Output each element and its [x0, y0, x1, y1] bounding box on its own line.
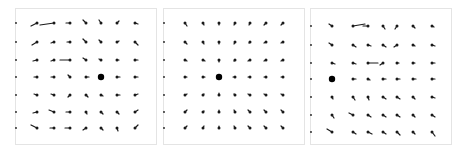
vector-stroke: [135, 125, 138, 128]
vector-stroke: [353, 97, 355, 100]
edge-mark: [310, 25, 312, 27]
vector-stroke: [31, 125, 37, 128]
edge-mark: [310, 78, 312, 80]
edge-mark: [15, 59, 17, 61]
vector-stroke: [353, 45, 356, 47]
vector-stroke: [185, 126, 187, 128]
center-dot: [329, 76, 335, 82]
vector-stroke: [395, 26, 397, 29]
vector-stroke: [264, 110, 266, 112]
edge-mark: [310, 96, 312, 98]
vector-stroke: [281, 126, 283, 128]
vector-stroke: [135, 110, 138, 112]
vector-stroke: [83, 128, 86, 130]
edge-mark: [310, 62, 312, 64]
panel-middle-glyphs: [163, 22, 284, 130]
edge-mark: [163, 41, 165, 43]
edge-mark: [163, 22, 165, 24]
vector-stroke: [99, 20, 101, 23]
vector-stroke: [380, 63, 383, 65]
vector-stroke: [68, 75, 70, 77]
edge-mark: [163, 59, 165, 61]
vector-stroke: [264, 126, 266, 128]
panel-right-glyphs: [310, 24, 435, 136]
vector-stroke: [68, 95, 70, 97]
vector-stroke: [327, 129, 332, 132]
vector-stroke: [281, 110, 283, 112]
vector-stroke: [83, 58, 86, 60]
vector-stroke: [83, 39, 86, 42]
vector-stroke: [383, 45, 386, 47]
vector-stroke: [383, 26, 385, 29]
vector-stroke: [248, 110, 250, 112]
vector-stroke: [432, 115, 435, 117]
vector-stroke: [432, 132, 435, 136]
edge-mark: [163, 76, 165, 78]
vector-stroke: [329, 43, 332, 45]
vector-stroke: [117, 21, 119, 23]
vector-stroke: [101, 128, 103, 130]
vector-stroke: [234, 60, 235, 61]
vector-stroke: [86, 95, 88, 97]
vector-stroke: [185, 110, 187, 112]
edge-mark: [310, 44, 312, 46]
vector-stroke: [397, 115, 400, 117]
vector-field-figure: [0, 0, 467, 154]
vector-stroke: [353, 132, 356, 134]
edge-mark: [15, 111, 17, 113]
vector-stroke: [413, 132, 415, 134]
edge-mark: [310, 114, 312, 116]
vector-stroke: [264, 23, 266, 25]
vector-stroke: [203, 94, 204, 95]
vector-stroke: [234, 94, 235, 95]
vector-stroke: [413, 115, 415, 117]
vector-stroke: [281, 23, 283, 25]
vector-stroke: [397, 97, 400, 99]
vector-stroke: [185, 23, 187, 26]
vector-stroke: [368, 115, 371, 117]
edge-mark: [310, 131, 312, 133]
panel-left-glyphs: [15, 20, 138, 131]
vector-stroke: [329, 24, 332, 26]
vector-stroke: [32, 42, 37, 45]
vector-stroke: [397, 132, 400, 135]
center-dot: [216, 74, 222, 80]
vector-stroke: [83, 20, 86, 23]
vector-stroke: [383, 132, 386, 134]
vector-stroke: [249, 42, 250, 43]
edge-mark: [15, 94, 17, 96]
vector-stroke: [40, 23, 54, 25]
vector-stroke: [413, 97, 415, 99]
edge-mark: [15, 76, 17, 78]
vector-stroke: [203, 111, 204, 112]
vector-stroke: [117, 112, 119, 114]
vector-stroke: [394, 45, 397, 47]
vector-stroke: [185, 42, 187, 44]
vector-stroke: [332, 115, 334, 118]
vector-stroke: [31, 23, 37, 26]
vector-stroke: [135, 42, 138, 45]
vector-stroke: [99, 40, 101, 42]
vector-stroke: [248, 126, 250, 128]
edge-mark: [15, 127, 17, 129]
edge-mark: [15, 41, 17, 43]
edge-mark: [163, 127, 165, 129]
edge-mark: [163, 94, 165, 96]
edge-mark: [15, 22, 17, 24]
vector-stroke: [101, 112, 103, 114]
center-dot: [98, 74, 104, 80]
vector-stroke: [413, 26, 415, 28]
vector-stroke: [383, 97, 386, 99]
edge-mark: [163, 111, 165, 113]
vector-stroke: [383, 115, 386, 117]
